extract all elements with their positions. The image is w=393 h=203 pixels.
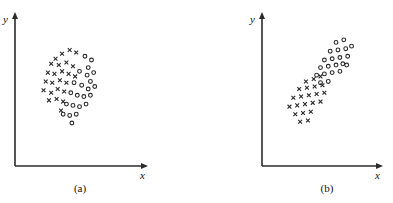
- data-point-circle: [84, 102, 88, 106]
- data-point-circle: [344, 47, 348, 51]
- data-point-cross: [56, 87, 60, 91]
- panel-a-caption: (a): [60, 182, 100, 194]
- data-point-circle: [78, 105, 82, 109]
- data-point-cross: [44, 80, 48, 84]
- panel-b: y x (b): [196, 0, 393, 203]
- data-point-circle: [86, 66, 90, 70]
- data-point-cross: [295, 103, 299, 107]
- data-point-circle: [83, 54, 87, 58]
- data-point-cross: [311, 101, 315, 105]
- data-point-cross: [319, 100, 323, 104]
- data-point-cross: [54, 57, 58, 61]
- data-point-cross: [50, 81, 54, 85]
- data-point-cross: [303, 102, 307, 106]
- data-point-circle: [68, 114, 72, 118]
- data-point-cross: [58, 78, 62, 82]
- data-point-cross: [309, 110, 313, 114]
- data-point-cross: [304, 80, 308, 84]
- data-point-cross: [293, 112, 297, 116]
- data-point-cross: [42, 88, 46, 92]
- data-point-cross: [49, 62, 53, 66]
- data-point-circle: [345, 63, 349, 67]
- panel-a: y x (a): [0, 0, 196, 203]
- data-point-circle: [326, 64, 330, 68]
- data-point-circle: [89, 93, 93, 97]
- data-point-cross: [319, 75, 323, 79]
- data-point-cross: [322, 91, 326, 95]
- data-point-cross: [291, 96, 295, 100]
- data-point-circle: [342, 38, 346, 42]
- data-point-circle: [89, 80, 93, 84]
- data-point-circle: [322, 72, 326, 76]
- panel-a-plot: [0, 0, 196, 203]
- data-point-cross: [288, 105, 292, 109]
- data-point-cross: [67, 72, 71, 76]
- series-class-x: [288, 75, 327, 124]
- data-point-cross: [301, 111, 305, 115]
- data-point-circle: [78, 69, 82, 73]
- data-point-cross: [312, 77, 316, 81]
- data-point-circle: [72, 81, 76, 85]
- panel-b-plot: [196, 0, 393, 203]
- data-point-cross: [299, 95, 303, 99]
- data-point-circle: [338, 56, 342, 60]
- data-point-circle: [71, 103, 75, 107]
- data-point-circle: [75, 93, 79, 97]
- series-class-o: [61, 54, 96, 125]
- data-point-cross: [49, 91, 53, 95]
- data-point-cross: [298, 120, 302, 124]
- data-point-circle: [334, 63, 338, 67]
- data-point-circle: [61, 112, 65, 116]
- data-point-circle: [90, 58, 94, 62]
- data-point-circle: [80, 83, 84, 87]
- data-point-cross: [57, 63, 61, 67]
- data-point-circle: [315, 73, 319, 77]
- data-point-circle: [336, 48, 340, 52]
- data-point-circle: [319, 66, 323, 70]
- data-point-cross: [74, 51, 78, 55]
- data-point-circle: [86, 87, 90, 91]
- data-point-cross: [59, 109, 63, 113]
- data-point-cross: [55, 97, 59, 101]
- data-point-circle: [92, 71, 96, 75]
- data-point-circle: [328, 49, 332, 53]
- data-point-circle: [330, 57, 334, 61]
- data-point-cross: [71, 64, 75, 68]
- data-point-cross: [306, 119, 310, 123]
- data-point-circle: [322, 58, 326, 62]
- data-point-cross: [65, 81, 69, 85]
- data-point-circle: [334, 40, 338, 44]
- data-point-circle: [69, 91, 73, 95]
- data-point-cross: [307, 93, 311, 97]
- data-point-circle: [330, 71, 334, 75]
- panel-b-caption: (b): [307, 182, 347, 194]
- data-point-circle: [341, 62, 345, 66]
- data-point-cross: [65, 61, 69, 65]
- data-point-cross: [297, 87, 301, 91]
- panel-b-x-axis-label: x: [375, 170, 380, 181]
- data-point-circle: [85, 73, 89, 77]
- y-axis-arrowhead: [12, 12, 18, 19]
- data-point-circle: [346, 54, 350, 58]
- data-point-circle: [338, 69, 342, 73]
- data-point-cross: [73, 75, 77, 79]
- data-point-cross: [315, 92, 319, 96]
- data-point-cross: [305, 86, 309, 90]
- panel-a-x-axis-label: x: [140, 170, 145, 181]
- data-point-cross: [62, 90, 66, 94]
- data-point-circle: [82, 95, 86, 99]
- panel-a-y-axis-label: y: [3, 14, 8, 25]
- axes-group: [12, 12, 148, 169]
- panel-b-y-axis-label: y: [250, 14, 255, 25]
- series-class-x: [42, 48, 78, 112]
- data-point-cross: [46, 71, 50, 75]
- data-point-circle: [70, 121, 74, 125]
- data-point-cross: [53, 72, 57, 76]
- data-point-circle: [93, 85, 97, 89]
- data-point-circle: [326, 80, 330, 84]
- data-point-cross: [313, 85, 317, 89]
- y-axis-arrowhead: [259, 12, 265, 19]
- data-point-cross: [68, 48, 72, 52]
- axes-group: [259, 12, 383, 169]
- series-class-o: [315, 38, 354, 85]
